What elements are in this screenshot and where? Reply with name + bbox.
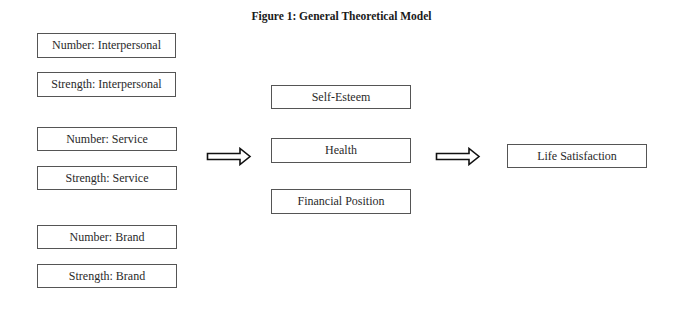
input-box-number-service: Number: Service xyxy=(37,127,177,151)
outcome-box-life-satisfaction: Life Satisfaction xyxy=(507,144,647,168)
mediator-box-financial-position: Financial Position xyxy=(271,189,411,214)
figure-title: Figure 1: General Theoretical Model xyxy=(0,10,683,22)
input-box-strength-service: Strength: Service xyxy=(37,166,177,190)
mediator-box-health: Health xyxy=(271,138,411,163)
double-right-arrow-icon xyxy=(435,147,481,166)
mediator-box-self-esteem: Self-Esteem xyxy=(271,85,411,109)
input-box-number-brand: Number: Brand xyxy=(37,225,177,249)
input-box-strength-interpersonal: Strength: Interpersonal xyxy=(37,72,176,97)
double-right-arrow-icon xyxy=(206,147,252,166)
input-box-number-interpersonal: Number: Interpersonal xyxy=(37,33,176,58)
input-box-strength-brand: Strength: Brand xyxy=(37,264,177,288)
